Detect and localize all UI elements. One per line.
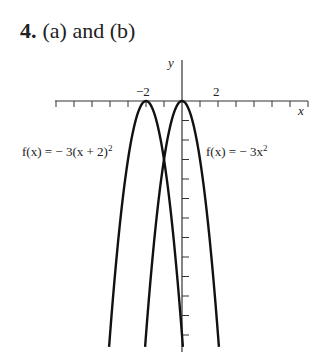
x-axis-label: x bbox=[298, 103, 304, 119]
parabola-graph bbox=[0, 0, 323, 359]
curve-label-shifted: f(x) = − 3(x + 2)2 bbox=[22, 143, 112, 160]
x-tick-label-neg2: −2 bbox=[136, 84, 150, 100]
parabola-curve-0 bbox=[109, 101, 183, 347]
curve-label-base: f(x) = − 3x2 bbox=[206, 143, 267, 160]
y-axis-label: y bbox=[168, 55, 174, 71]
x-tick-label-2: 2 bbox=[213, 84, 220, 100]
